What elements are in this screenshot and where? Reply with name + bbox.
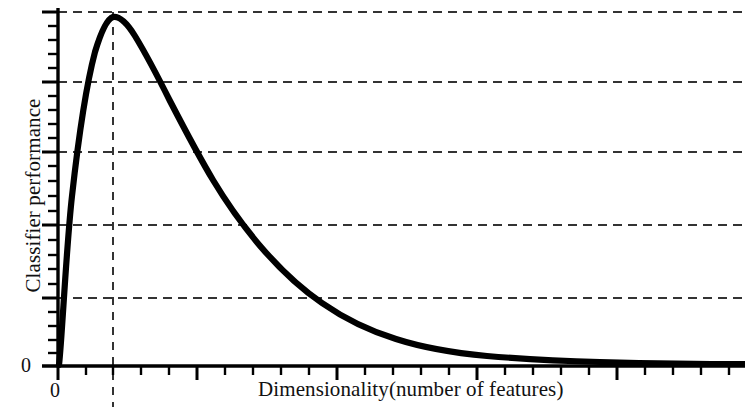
x-axis-title: Dimensionality(number of features) [258,377,563,402]
y-axis-title: Classifier performance [21,81,46,311]
y-axis-origin-label: 0 [21,354,31,377]
x-axis-origin-label: 0 [50,379,60,402]
chart-figure: Classifier performance Dimensionality(nu… [0,0,745,407]
chart-plot-area [0,0,745,407]
horizontal-gridlines [58,12,745,298]
classifier-performance-curve [59,17,744,365]
